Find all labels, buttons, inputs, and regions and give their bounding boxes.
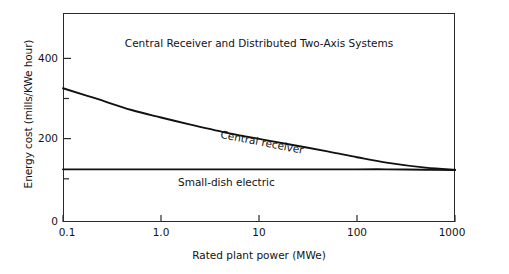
x-tick-label-0-1: 0.1 [42,227,92,238]
y-axis-title: Energy cost (mills/KWe hour) [22,9,34,219]
x-tick-label-1-0: 1.0 [136,227,186,238]
series-label-small-dish-electric: Small-dish electric [178,176,275,188]
x-tick-label-1000: 1000 [427,227,477,238]
x-axis-title: Rated plant power (MWe) [63,249,455,261]
x-tick-label-10: 10 [234,227,284,238]
figure-container: 400 200 0 0.1 1.0 10 100 1000 Energy cos… [0,0,509,274]
x-tick-label-100: 100 [332,227,382,238]
chart-title: Central Receiver and Distributed Two-Axi… [63,37,455,49]
